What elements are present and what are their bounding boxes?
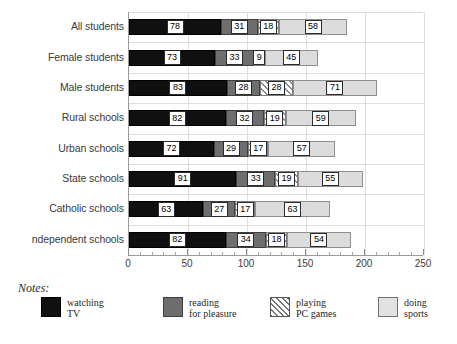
legend-label: watchingTV — [67, 297, 104, 319]
category-label: Urban schools — [0, 142, 124, 154]
horizontal-gridline — [129, 103, 424, 104]
bar-value-label: 31 — [231, 20, 248, 35]
bar-segment: 55 — [298, 171, 363, 187]
x-tick-minor — [163, 252, 164, 255]
bar-segment: 19 — [264, 110, 286, 126]
bar-value-label: 45 — [283, 50, 300, 65]
bar-segment: 19 — [275, 171, 297, 187]
x-tick-minor — [329, 252, 330, 255]
stacked-bar: 83282871 — [129, 80, 377, 96]
x-tick-label: 100 — [238, 258, 255, 269]
legend-label: readingfor pleasure — [189, 297, 236, 319]
sports-swatch — [378, 297, 398, 317]
x-tick-minor — [222, 252, 223, 255]
bar-segment: 63 — [255, 201, 329, 217]
bar-segment: 45 — [265, 50, 318, 66]
legend-label-line2: PC games — [296, 309, 336, 320]
bar-segment: 33 — [236, 171, 275, 187]
legend-item: watchingTV — [41, 297, 104, 319]
bar-value-label: 73 — [164, 50, 181, 65]
horizontal-gridline — [129, 73, 424, 74]
x-tick-minor — [152, 252, 153, 255]
x-tick-minor — [270, 252, 271, 255]
stacked-bar: 91331955 — [129, 171, 363, 187]
bar-segment: 9 — [254, 50, 265, 66]
stacked-bar: 63271763 — [129, 201, 330, 217]
bar-value-label: 34 — [237, 233, 254, 248]
bar-value-label: 29 — [223, 141, 240, 156]
bar-value-label: 54 — [310, 233, 327, 248]
x-tick-label: 200 — [356, 258, 373, 269]
bar-segment: 59 — [286, 110, 356, 126]
bar-value-label: 71 — [326, 81, 343, 96]
x-tick-minor — [411, 252, 412, 255]
bar-segment: 34 — [226, 232, 266, 248]
bar-value-label: 63 — [158, 202, 175, 217]
category-label: Female students — [0, 51, 124, 63]
bar-value-label: 63 — [284, 202, 301, 217]
x-tick-minor — [376, 252, 377, 255]
x-tick-minor — [317, 252, 318, 255]
bar-segment: 31 — [221, 19, 258, 35]
bar-value-label: 91 — [174, 172, 191, 187]
x-tick-minor — [211, 252, 212, 255]
bar-value-label: 27 — [211, 202, 228, 217]
x-tick-minor — [388, 252, 389, 255]
games-swatch — [270, 297, 290, 317]
bar-segment: 28 — [260, 80, 293, 96]
legend-label-line2: TV — [67, 309, 104, 320]
tv-swatch — [41, 297, 61, 317]
stacked-bar: 82341854 — [129, 232, 351, 248]
legend-label: playingPC games — [296, 297, 336, 319]
bar-value-label: 17 — [237, 202, 254, 217]
x-tick-minor — [340, 252, 341, 255]
legend-item: playingPC games — [270, 297, 336, 319]
bar-segment: 72 — [129, 141, 214, 157]
legend-label-line1: playing — [296, 298, 336, 309]
vertical-gridline — [424, 12, 425, 255]
x-tick-minor — [399, 252, 400, 255]
bar-segment: 29 — [214, 141, 248, 157]
bar-segment: 63 — [129, 201, 203, 217]
category-label: Male students — [0, 81, 124, 93]
x-tick-minor — [258, 252, 259, 255]
bar-value-label: 82 — [169, 111, 186, 126]
notes-label: Notes: — [18, 281, 49, 296]
bar-value-label: 57 — [293, 141, 310, 156]
stacked-bar: 78311858 — [129, 19, 347, 35]
legend-label-line1: watching — [67, 298, 104, 309]
bar-value-label: 59 — [312, 111, 329, 126]
x-tick-label: 0 — [125, 258, 131, 269]
x-tick-label: 250 — [415, 258, 432, 269]
legend-label-line2: for pleasure — [189, 309, 236, 320]
plot-area: 7831185873339458328287182321959722917579… — [128, 12, 423, 255]
legend-item: readingfor pleasure — [163, 297, 236, 319]
x-tick-major — [187, 249, 188, 255]
category-label: All students — [0, 20, 124, 32]
legend-label-line2: sports — [404, 309, 428, 320]
x-tick-label: 150 — [297, 258, 314, 269]
bar-value-label: 33 — [247, 172, 264, 187]
category-label: Rural schools — [0, 111, 124, 123]
bar-segment: 18 — [258, 19, 279, 35]
bar-value-label: 9 — [253, 50, 265, 65]
read-swatch — [163, 297, 183, 317]
x-tick-minor — [352, 252, 353, 255]
x-axis-line — [128, 255, 423, 256]
bar-segment: 58 — [279, 19, 347, 35]
x-tick-label: 50 — [181, 258, 192, 269]
stacked-bar: 72291757 — [129, 141, 335, 157]
bar-value-label: 18 — [260, 20, 277, 35]
bar-segment: 91 — [129, 171, 236, 187]
bar-segment: 78 — [129, 19, 221, 35]
bar-segment: 32 — [226, 110, 264, 126]
x-tick-major — [423, 249, 424, 255]
bar-segment: 83 — [129, 80, 227, 96]
bar-value-label: 17 — [250, 141, 267, 156]
bar-value-label: 78 — [167, 20, 184, 35]
x-tick-minor — [234, 252, 235, 255]
horizontal-gridline — [129, 42, 424, 43]
category-label: ndependent schools — [0, 233, 124, 245]
legend-item: doingsports — [378, 297, 428, 319]
bar-value-label: 33 — [226, 50, 243, 65]
